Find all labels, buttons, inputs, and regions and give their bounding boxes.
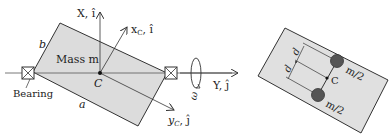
yc-axis-label: yC, ĵ <box>167 114 191 128</box>
diagram-canvas: X, î xC, î Y, ĵ yC, ĵ b a Mass m C Beari… <box>0 0 392 137</box>
dimension-tick <box>295 61 297 63</box>
left-bearing-icon <box>22 67 34 79</box>
xc-axis-label: xC, î <box>131 23 154 37</box>
left-figure: X, î xC, î Y, ĵ yC, ĵ b a Mass m C Beari… <box>5 7 238 128</box>
bearing-label: Bearing <box>13 88 54 99</box>
bottom-point-mass <box>312 89 325 102</box>
xc-axis-unit: , î <box>143 23 154 36</box>
right-figure: d d C m/2 m/2 <box>258 28 388 133</box>
bearing-leader-line <box>26 79 30 88</box>
side-a-label: a <box>79 98 86 111</box>
right-center-label: C <box>331 75 339 86</box>
x-axis-label: X, î <box>77 7 96 20</box>
side-b-label: b <box>39 38 46 51</box>
y-axis-label: Y, ĵ <box>212 79 230 92</box>
rotated-plate <box>258 28 388 133</box>
yc-axis-unit: , ĵ <box>180 114 191 127</box>
center-label: C <box>94 77 103 90</box>
center-point <box>98 71 102 75</box>
right-bearing-icon <box>165 67 177 79</box>
top-point-mass <box>331 55 344 68</box>
omega-label: ω <box>187 91 199 101</box>
mass-label: Mass m <box>56 53 100 66</box>
right-center-point <box>325 76 328 79</box>
